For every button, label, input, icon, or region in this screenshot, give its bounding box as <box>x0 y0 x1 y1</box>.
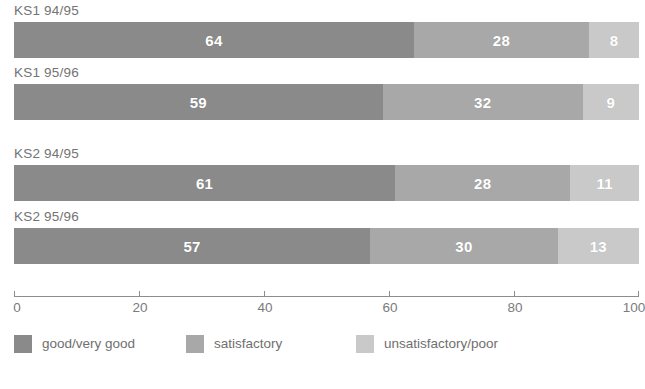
legend-item-unsatisfactory-poor: unsatisfactory/poor <box>356 333 498 355</box>
segment-value: 32 <box>474 95 491 110</box>
segment-satisfactory: 32 <box>383 84 583 120</box>
segment-value: 64 <box>205 33 222 48</box>
legend-swatch-icon <box>186 335 204 353</box>
legend-label: satisfactory <box>214 335 282 353</box>
segment-value: 61 <box>196 176 213 191</box>
segment-unsatisfactory-poor: 13 <box>558 228 639 264</box>
segment-value: 57 <box>183 239 200 254</box>
x-axis-tick <box>264 291 265 297</box>
segment-value: 28 <box>493 33 510 48</box>
x-axis-tick <box>514 291 515 297</box>
legend-swatch-icon <box>14 335 32 353</box>
segment-good-very-good: 61 <box>14 165 395 201</box>
x-axis-tick-label-80: 80 <box>507 300 522 315</box>
segment-good-very-good: 64 <box>14 22 414 58</box>
segment-value: 28 <box>474 176 491 191</box>
segment-unsatisfactory-poor: 11 <box>570 165 639 201</box>
segment-satisfactory: 30 <box>370 228 558 264</box>
segment-unsatisfactory-poor: 8 <box>589 22 639 58</box>
segment-good-very-good: 59 <box>14 84 383 120</box>
x-axis-tick-label-40: 40 <box>257 300 272 315</box>
x-axis-line <box>14 296 639 297</box>
segment-unsatisfactory-poor: 9 <box>583 84 639 120</box>
legend-item-satisfactory: satisfactory <box>186 333 282 355</box>
bar-row-ks2-9596: 57 30 13 <box>14 228 639 264</box>
bar-row-ks1-9596: 59 32 9 <box>14 84 639 120</box>
x-axis-tick-label-0: 0 <box>13 300 21 315</box>
x-axis-tick <box>638 291 639 297</box>
plot-area: 64 28 8 59 32 9 61 28 <box>14 0 639 389</box>
x-axis-tick-label-100: 100 <box>623 300 645 315</box>
bar-row-ks2-9495: 61 28 11 <box>14 165 639 201</box>
segment-satisfactory: 28 <box>414 22 589 58</box>
x-axis-tick <box>389 291 390 297</box>
x-axis-tick <box>14 291 15 297</box>
x-axis-tick-label-20: 20 <box>132 300 147 315</box>
bar-row-ks1-9495: 64 28 8 <box>14 22 639 58</box>
segment-good-very-good: 57 <box>14 228 370 264</box>
segment-value: 59 <box>190 95 207 110</box>
segment-satisfactory: 28 <box>395 165 570 201</box>
x-axis-tick <box>139 291 140 297</box>
page-edge-artifact <box>14 374 514 384</box>
segment-value: 11 <box>596 176 612 191</box>
segment-value: 9 <box>607 95 616 110</box>
segment-value: 8 <box>610 33 619 48</box>
legend-item-good-very-good: good/very good <box>14 333 135 355</box>
legend-label: unsatisfactory/poor <box>384 335 498 353</box>
segment-value: 30 <box>455 239 472 254</box>
legend-label: good/very good <box>42 335 135 353</box>
legend-swatch-icon <box>356 335 374 353</box>
x-axis-tick-label-60: 60 <box>382 300 397 315</box>
segment-value: 13 <box>590 239 607 254</box>
